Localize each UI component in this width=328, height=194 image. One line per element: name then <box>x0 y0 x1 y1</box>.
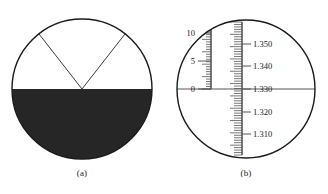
refractive-index-scale-label: 1.350 <box>253 39 272 49</box>
upper-bright-field <box>0 0 164 89</box>
panel-b: 1050 1.3501.3401.3301.3201.310 (b) <box>164 0 328 194</box>
refractive-index-scale-label: 1.330 <box>253 84 272 94</box>
panel-a: (a) <box>0 0 164 194</box>
panel-a-diagram <box>0 0 164 168</box>
refractive-index-scale-label: 1.340 <box>253 61 272 71</box>
refractometer-figure: (a) 10 <box>0 0 328 194</box>
refractive-index-scale-label: 1.310 <box>253 129 272 139</box>
refractive-index-scale-label: 1.320 <box>253 107 272 117</box>
panel-a-caption: (a) <box>0 168 164 178</box>
panel-b-diagram: 1050 1.3501.3401.3301.3201.310 <box>164 0 328 168</box>
panel-b-caption: (b) <box>164 168 328 178</box>
brix-scale-label: 10 <box>187 28 196 38</box>
brix-scale-label: 5 <box>191 56 195 66</box>
brix-scale-label: 0 <box>191 84 195 94</box>
